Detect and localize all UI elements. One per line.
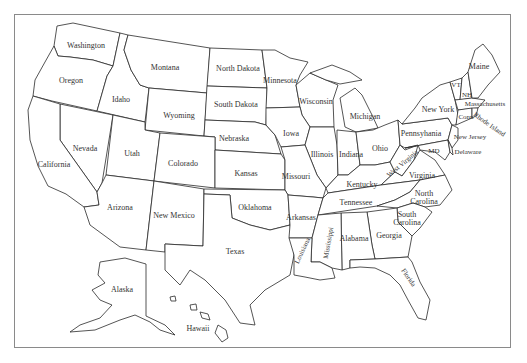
label-washington: Washington <box>67 42 105 50</box>
state-shapes <box>28 23 500 342</box>
state-alaska[interactable] <box>70 258 175 335</box>
label-minnesota: Minnesota <box>263 77 297 85</box>
state-maine[interactable] <box>468 44 500 98</box>
label-tennessee: Tennessee <box>340 199 373 207</box>
label-alaska: Alaska <box>111 286 133 294</box>
label-maryland: MD <box>428 148 439 155</box>
label-nevada: Nevada <box>73 145 97 153</box>
label-delaware: Delaware <box>455 149 482 156</box>
label-vermont: VT <box>451 82 460 89</box>
label-arkansas: Arkansas <box>286 214 316 222</box>
label-oklahoma: Oklahoma <box>238 204 271 212</box>
label-pennsylvania: Pennsyhania <box>401 130 441 138</box>
state-new-york[interactable] <box>402 82 458 125</box>
label-new-york: New York <box>422 106 454 114</box>
label-north-dakota: North Dakota <box>216 65 260 73</box>
label-iowa: Iowa <box>283 130 299 138</box>
hawaii-island-kauai <box>170 296 176 301</box>
label-kentucky: Kentucky <box>346 181 377 189</box>
label-massachusetts: Massachusetts <box>465 101 505 108</box>
label-new-jersey: New Jersey <box>454 134 486 141</box>
label-south-carolina-line2: Carolina <box>393 219 421 227</box>
us-states-map <box>0 0 527 363</box>
label-montana: Montana <box>151 64 179 72</box>
label-indiana: Indiana <box>339 151 363 159</box>
label-nebraska: Nebraska <box>219 135 249 143</box>
hawaii-island-oahu <box>190 304 197 310</box>
hawaii-island-maui <box>200 312 210 320</box>
label-new-hampshire: NH <box>462 92 472 99</box>
label-hawaii: Hawaii <box>186 325 209 333</box>
label-oregon: Oregon <box>59 77 83 85</box>
label-wyoming: Wyoming <box>163 112 195 120</box>
label-illinois: Illinois <box>311 151 334 159</box>
label-virginia: Virginia <box>409 172 435 180</box>
label-south-dakota: South Dakota <box>214 101 258 109</box>
label-arizona: Arizona <box>107 204 133 212</box>
label-kansas: Kansas <box>234 170 257 178</box>
label-idaho: Idaho <box>112 96 130 104</box>
state-hawaii[interactable] <box>215 325 228 342</box>
label-maine: Maine <box>469 63 489 71</box>
label-north-carolina-line2: Carolina <box>410 198 438 206</box>
label-wisconsin: Wisconsin <box>299 98 332 106</box>
label-texas: Texas <box>226 248 245 256</box>
label-new-mexico: New Mexico <box>153 212 195 220</box>
label-colorado: Colorado <box>168 160 198 168</box>
label-ohio: Ohio <box>372 145 388 153</box>
label-georgia: Georgia <box>376 232 402 240</box>
label-utah: Utah <box>124 150 140 158</box>
label-alabama: Alabama <box>340 235 369 243</box>
state-florida[interactable] <box>350 257 430 320</box>
label-missouri: Missouri <box>282 173 310 181</box>
label-california: California <box>38 161 70 169</box>
label-michigan: Michigan <box>350 113 381 121</box>
